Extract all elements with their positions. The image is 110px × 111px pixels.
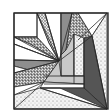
inner-dotted-vertical [74, 34, 84, 76]
quilt-block-diagram [0, 0, 110, 111]
top-left-white-square [14, 13, 37, 37]
